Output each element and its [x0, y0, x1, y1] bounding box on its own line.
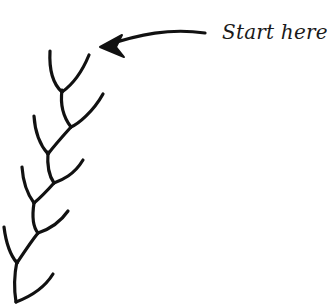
- stitch-chain: [4, 51, 103, 302]
- stitch-diagram: [0, 0, 327, 306]
- arrow-icon: [100, 31, 205, 57]
- start-here-label: Start here: [222, 20, 327, 44]
- diagram-canvas: Start here: [0, 0, 327, 306]
